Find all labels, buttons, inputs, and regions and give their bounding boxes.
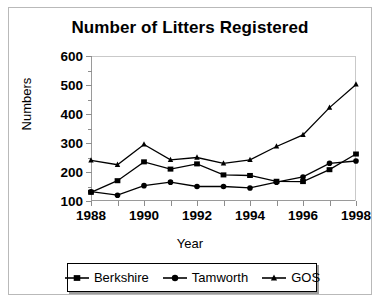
- x-axis-tick: [171, 201, 172, 206]
- data-point-marker: [115, 192, 121, 198]
- square-marker-icon: [64, 272, 90, 284]
- y-axis-tick-label: 500: [60, 78, 83, 93]
- y-axis-tick-label: 100: [60, 194, 83, 209]
- legend-item-label: GOS: [291, 270, 320, 285]
- legend-item-label: Berkshire: [94, 270, 149, 285]
- data-point-marker: [353, 152, 359, 157]
- x-axis-tick-label: 1998: [341, 208, 371, 223]
- legend-item-tamworth[interactable]: Tamworth: [162, 270, 248, 285]
- x-axis-tick: [303, 201, 304, 206]
- data-point-marker: [88, 189, 94, 195]
- plot-area: 100200300400500600 198819901992199419961…: [91, 56, 356, 201]
- x-axis-tick: [250, 201, 251, 206]
- data-point-marker: [221, 184, 227, 190]
- y-axis-tick-label: 200: [60, 165, 83, 180]
- data-point-marker: [274, 179, 280, 185]
- chart-legend: BerkshireTamworthGOS: [67, 263, 317, 292]
- x-axis-tick: [224, 201, 225, 206]
- y-axis-tick-label: 300: [60, 136, 83, 151]
- chart-frame: Number of Litters Registered Numbers Yea…: [8, 7, 372, 295]
- data-point-marker: [194, 161, 200, 166]
- triangle-marker-icon: [261, 272, 287, 284]
- x-axis-tick: [277, 201, 278, 206]
- x-axis-tick: [144, 201, 145, 206]
- y-axis-tick-label: 600: [60, 49, 83, 64]
- data-point-marker: [353, 81, 358, 86]
- legend-item-gos[interactable]: GOS: [261, 270, 320, 285]
- x-axis-tick-label: 1992: [182, 208, 212, 223]
- x-axis-tick: [330, 201, 331, 206]
- data-point-marker: [327, 167, 333, 172]
- x-axis-title: Year: [9, 236, 371, 251]
- data-point-marker: [194, 154, 199, 159]
- x-axis-tick-label: 1988: [76, 208, 106, 223]
- data-point-marker: [300, 174, 306, 180]
- data-point-marker: [327, 161, 333, 167]
- series-layer: [91, 56, 356, 201]
- data-point-marker: [247, 185, 253, 191]
- x-axis-tick: [356, 201, 357, 206]
- x-axis-tick-label: 1996: [288, 208, 318, 223]
- series-line: [91, 161, 356, 195]
- y-axis-title: Numbers: [19, 78, 34, 131]
- y-axis-tick-label: 400: [60, 107, 83, 122]
- series-line: [91, 84, 356, 164]
- data-point-marker: [168, 179, 174, 185]
- data-point-marker: [141, 183, 147, 189]
- legend-entries: BerkshireTamworthGOS: [68, 264, 316, 291]
- data-point-marker: [353, 158, 359, 164]
- x-axis-tick: [91, 201, 92, 206]
- circle-marker-icon: [162, 272, 188, 284]
- x-axis-tick: [118, 201, 119, 206]
- legend-item-berkshire[interactable]: Berkshire: [64, 270, 149, 285]
- data-point-marker: [194, 184, 200, 190]
- x-axis-tick: [197, 201, 198, 206]
- data-point-marker: [247, 173, 253, 178]
- x-axis-tick-label: 1990: [129, 208, 159, 223]
- data-point-marker: [300, 179, 306, 184]
- x-axis-tick-label: 1994: [235, 208, 265, 223]
- series-gos: [88, 81, 358, 167]
- legend-item-label: Tamworth: [192, 270, 248, 285]
- data-point-marker: [115, 178, 121, 183]
- data-point-marker: [168, 167, 174, 172]
- data-point-marker: [141, 159, 147, 164]
- data-point-marker: [141, 141, 146, 146]
- data-point-marker: [221, 172, 227, 177]
- chart-title: Number of Litters Registered: [9, 18, 371, 38]
